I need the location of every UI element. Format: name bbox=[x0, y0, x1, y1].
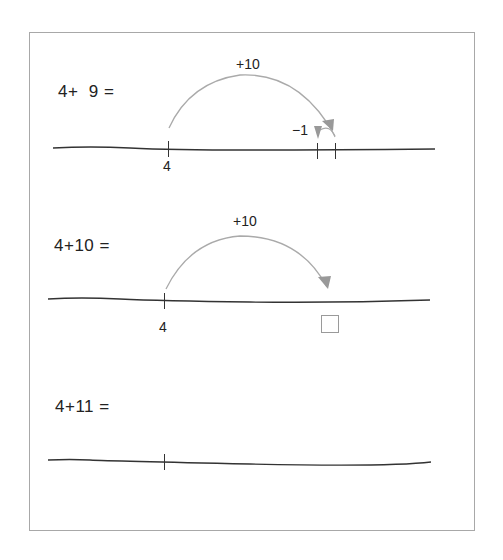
exercise-3: 4+11 = bbox=[0, 0, 503, 500]
number-line-3 bbox=[0, 0, 503, 500]
